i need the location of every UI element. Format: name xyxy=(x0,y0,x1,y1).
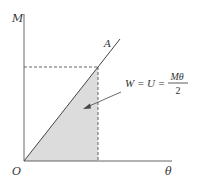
y-axis-label: M xyxy=(11,12,24,25)
origin-label: O xyxy=(12,165,21,178)
point-A-label: A xyxy=(103,38,111,49)
equation-numerator: Mθ xyxy=(169,71,183,82)
moment-rotation-diagram: M θ O A W = U = Mθ 2 xyxy=(0,0,203,181)
x-axis-label: θ xyxy=(165,165,172,178)
equation-denominator: 2 xyxy=(176,85,181,96)
equation-lhs: W = U = xyxy=(125,77,165,89)
